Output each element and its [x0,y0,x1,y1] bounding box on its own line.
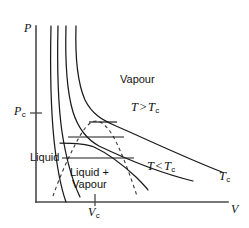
pc-tick-label: Pc [14,105,26,120]
tc-curve-sub: c [226,175,230,184]
vc-tick-label-sub: c [95,211,99,220]
liquid-vapour-region-label: Liquid + Vapour [70,166,109,191]
diagram-canvas [0,0,249,228]
y-axis-label: P [24,22,31,35]
vapour-region-label: Vapour [120,73,155,85]
t-greater-main: T [131,100,138,114]
t-less-than-tc-label: T<Tc [147,159,175,175]
liquid-vapour-line-2: Vapour [70,178,109,190]
isotherm-curve-4 [76,26,222,172]
greater-than-operator: > [138,100,148,114]
liquid-region-label: Liquid [30,151,59,163]
t-greater-sub: c [155,106,159,115]
t-less-sub: c [171,165,175,174]
t-less-main: T [147,159,154,173]
x-axis-label: V [231,203,238,216]
tc-curve-label: Tc [219,169,230,185]
t-greater-than-tc-label: T>Tc [131,100,159,116]
liquid-vapour-line-1: Liquid + [70,166,109,178]
pc-tick-label-sub: c [21,110,25,119]
pv-phase-diagram-figure: P V Pc Vc Vapour Liquid Liquid + Vapour … [0,0,249,228]
less-than-operator: < [154,159,164,173]
vc-tick-label: Vc [88,206,100,221]
t-less-crit: T [164,159,171,173]
isotherm-curve-1 [51,26,66,202]
t-greater-crit: T [148,100,155,114]
tc-curve-main: T [219,169,226,183]
